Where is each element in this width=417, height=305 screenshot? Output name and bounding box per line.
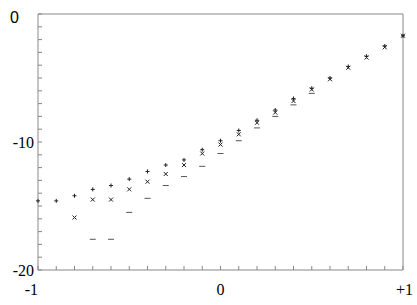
data-point-plus — [146, 169, 150, 173]
scatter-chart: 0-10-20 -10+1 — [0, 0, 417, 305]
data-point-plus — [164, 163, 168, 167]
x-axis-ticks — [38, 266, 403, 270]
data-points — [36, 34, 405, 240]
data-point-cross — [219, 143, 223, 147]
data-point-plus — [200, 148, 204, 152]
data-point-plus — [219, 139, 223, 143]
data-point-cross — [146, 180, 150, 184]
data-point-cross — [109, 198, 113, 202]
data-point-plus — [127, 177, 131, 181]
data-point-cross — [164, 172, 168, 176]
data-point-plus — [182, 158, 186, 162]
data-point-cross — [200, 152, 204, 156]
data-point-cross — [182, 163, 186, 167]
data-point-plus — [54, 199, 58, 203]
y-tick-label: -10 — [13, 134, 34, 151]
data-point-plus — [36, 199, 40, 203]
data-point-plus — [237, 128, 241, 132]
data-point-cross — [73, 216, 77, 220]
x-tick-label: -1 — [25, 281, 38, 298]
data-point-cross — [91, 198, 95, 202]
x-tick-label: 0 — [217, 281, 225, 298]
data-point-plus — [109, 184, 113, 188]
x-tick-label: +1 — [396, 281, 413, 298]
y-tick-label: -20 — [13, 262, 34, 279]
y-axis-labels: 0-10-20 — [10, 9, 34, 279]
data-point-cross — [127, 187, 131, 191]
y-tick-label: 0 — [10, 9, 19, 26]
data-point-plus — [73, 194, 77, 198]
y-axis-ticks — [38, 14, 42, 270]
data-point-plus — [91, 187, 95, 191]
x-axis-labels: -10+1 — [25, 281, 413, 298]
data-point-cross — [237, 132, 241, 136]
